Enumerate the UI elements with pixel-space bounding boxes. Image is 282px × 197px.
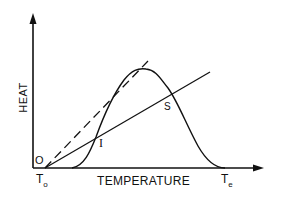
tangent-line: [45, 61, 148, 168]
x-axis-arrow-icon: [253, 165, 264, 172]
t-end-label: Te: [221, 173, 233, 185]
t-start-sub: o: [43, 180, 47, 189]
x-axis-label: TEMPERATURE: [97, 175, 190, 187]
point-s-label: S: [164, 102, 171, 112]
heat-generation-curve: [72, 69, 225, 168]
y-axis-arrow-icon: [30, 13, 37, 24]
y-axis-label: HEAT: [18, 82, 29, 113]
t-start-label: To: [36, 173, 48, 185]
t-end-sub: e: [228, 180, 232, 189]
point-i-label: I: [99, 137, 103, 149]
origin-label: O: [35, 155, 44, 166]
diagram-canvas: [0, 0, 282, 197]
